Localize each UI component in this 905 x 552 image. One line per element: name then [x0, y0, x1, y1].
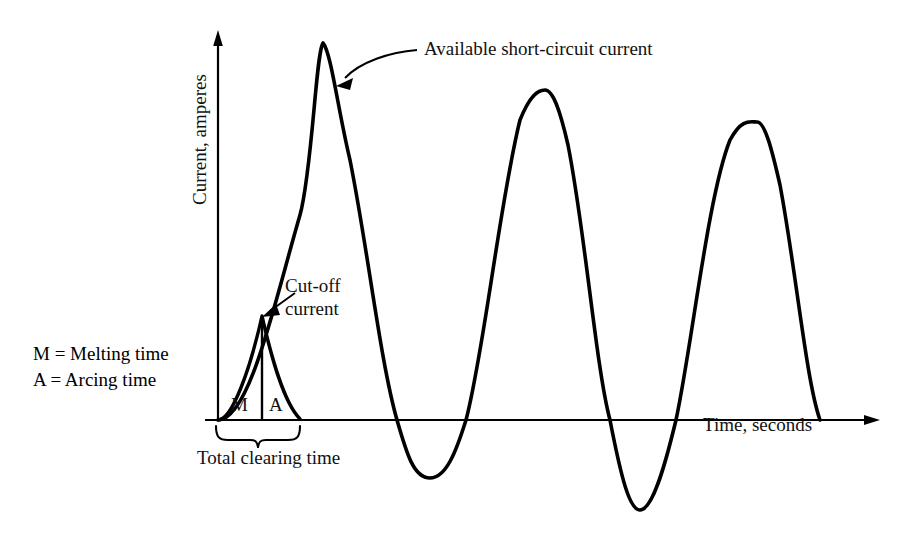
- annotation-cutoff-current-line1: Cut-off: [285, 274, 341, 297]
- legend-item-melting: M = Melting time: [33, 341, 169, 367]
- annotation-cutoff-current-line2: current: [285, 297, 341, 320]
- annotation-available-current: Available short-circuit current: [424, 38, 653, 60]
- y-axis-label: Current, amperes: [189, 74, 211, 205]
- melting-time-marker: M: [231, 394, 248, 416]
- legend: M = Melting time A = Arcing time: [33, 341, 169, 393]
- annotation-total-clearing-time: Total clearing time: [197, 447, 340, 469]
- annotation-cutoff-current: Cut-off current: [285, 274, 341, 320]
- fuse-current-chart: [0, 0, 905, 552]
- legend-item-arcing: A = Arcing time: [33, 367, 169, 393]
- y-axis: [213, 30, 223, 420]
- x-axis-label: Time, seconds: [703, 414, 812, 436]
- available-current-leader-arrow: [336, 50, 417, 90]
- total-clearing-time-brace: [216, 426, 300, 447]
- arcing-time-marker: A: [269, 394, 283, 416]
